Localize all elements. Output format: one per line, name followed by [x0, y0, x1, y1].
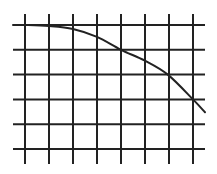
vertical-grid-lines [25, 14, 193, 164]
decline-curve-chart [0, 0, 217, 174]
